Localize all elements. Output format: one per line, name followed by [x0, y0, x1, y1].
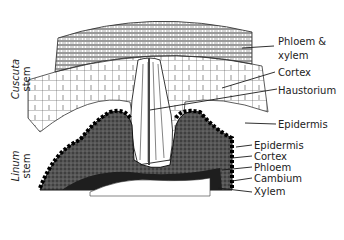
- linum-name: Linum: [10, 151, 21, 182]
- linum-stem-label: Linum stem: [10, 136, 32, 196]
- label-epidermis-linum: Epidermis: [254, 140, 304, 151]
- linum-suffix: stem: [21, 153, 32, 178]
- label-phloem-xylem-line2: xylem: [278, 50, 309, 61]
- cuscuta-suffix: stem: [21, 66, 32, 91]
- label-cambium: Cambium: [254, 173, 302, 184]
- label-cortex-linum: Cortex: [254, 151, 287, 162]
- label-cortex-cuscuta: Cortex: [278, 67, 311, 78]
- label-phloem: Phloem: [254, 162, 291, 173]
- cuscuta-stem-label: Cuscuta stem: [10, 44, 32, 114]
- cuscuta-name: Cuscuta: [10, 59, 21, 99]
- label-phloem-xylem-line1: Phloem &: [278, 36, 326, 47]
- label-haustorium: Haustorium: [278, 85, 336, 96]
- label-xylem: Xylem: [254, 186, 285, 197]
- label-epidermis-cuscuta: Epidermis: [278, 119, 328, 130]
